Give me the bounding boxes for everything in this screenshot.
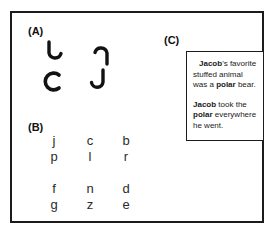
hook-rotation-0-shape xyxy=(40,39,70,67)
letter-glyph-bottom: l xyxy=(89,149,92,164)
figure-outer-frame: (A) xyxy=(10,11,264,223)
bold-word-polar: polar xyxy=(216,80,236,89)
letter-glyph-top: f xyxy=(52,181,56,196)
bold-word-polar: polar xyxy=(193,110,213,119)
bold-word-jacob: Jacob xyxy=(199,59,222,68)
letter-pair-j-p: j p xyxy=(36,133,72,164)
panel-a-label: (A) xyxy=(28,26,43,37)
plain-run: bear. xyxy=(236,80,256,89)
letter-glyph-bottom: r xyxy=(124,149,128,164)
text-box-sentence-1: Jacob's favorite stuffed animal was a po… xyxy=(193,59,257,91)
hook-rotation-1-shape xyxy=(86,39,116,67)
panel-b-label: (B) xyxy=(28,122,43,133)
letter-pair-f-g: f g xyxy=(36,181,72,212)
panel-c-label: (C) xyxy=(164,35,179,46)
letter-group-upper: j p c l b r xyxy=(36,133,146,164)
letter-glyph-top: n xyxy=(86,181,93,196)
panel-c-text-box: Jacob's favorite stuffed animal was a po… xyxy=(186,51,264,141)
text-box-sentence-2: Jacob took the polar everywhere he went. xyxy=(193,100,257,132)
letter-glyph-top: b xyxy=(122,133,129,148)
hook-rotation-2-shape xyxy=(38,67,68,95)
bold-word-jacob: Jacob xyxy=(193,100,216,109)
letter-glyph-bottom: e xyxy=(122,197,129,212)
figure-canvas: (A) xyxy=(0,0,276,234)
hook-rotation-3-shape xyxy=(86,67,116,95)
letter-glyph-bottom: z xyxy=(87,197,94,212)
panel-b-letter-grid: j p c l b r f g n z xyxy=(36,133,146,225)
letter-pair-b-r: b r xyxy=(108,133,144,164)
letter-group-lower: f g n z d e xyxy=(36,181,146,212)
letter-pair-n-z: n z xyxy=(72,181,108,212)
plain-run: took the xyxy=(216,100,247,109)
letter-pair-d-e: d e xyxy=(108,181,144,212)
panel-a-shape-grid xyxy=(38,39,124,95)
letter-glyph-top: c xyxy=(87,133,94,148)
letter-glyph-bottom: p xyxy=(50,149,57,164)
letter-glyph-bottom: g xyxy=(50,197,57,212)
letter-glyph-top: d xyxy=(122,181,129,196)
letter-pair-c-l: c l xyxy=(72,133,108,164)
letter-glyph-top: j xyxy=(53,133,56,148)
